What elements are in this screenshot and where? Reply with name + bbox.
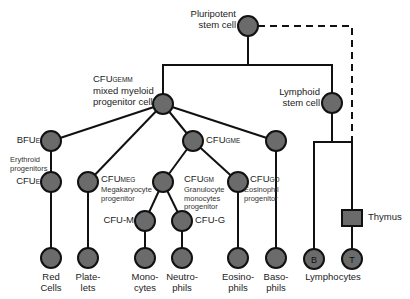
node-baso-progenitor: [266, 131, 286, 151]
label-cfu-gm: CFUGM: [184, 174, 214, 185]
label-cfu-gm-desc: Granulocyte monocytes progenitor: [184, 186, 224, 212]
node-cfu-gm: [153, 172, 173, 192]
label-pluripotent: Pluripotent stem cell: [170, 9, 236, 31]
label-cfu-eo: CFUGO: [250, 174, 280, 185]
label-neutrophils: Neutro- phils: [162, 272, 202, 294]
label-cfu-eo-desc: Eosinophil progenitor: [244, 186, 279, 203]
label-cfu-gemm-desc: mixed myeloid progenitor cell: [93, 86, 154, 108]
label-bfu-e: BFUE: [10, 135, 40, 146]
cfu-eo-main: CFU: [250, 173, 270, 184]
cfu-eo-sub: GO: [270, 176, 280, 183]
node-cfu-gme: [183, 131, 203, 151]
node-cfu-g: [172, 211, 192, 231]
bfu-e-sub: E: [36, 137, 40, 144]
lineage-diagram: B T: [0, 0, 410, 299]
bfu-e-main: BFU: [17, 134, 36, 145]
label-monocytes: Mono- cytes: [125, 272, 165, 294]
label-red-cells: Red Cells: [31, 272, 71, 294]
label-eosinophils: Eosino- phils: [218, 272, 258, 294]
thymus-box: [342, 210, 362, 226]
cfu-gemm-main: CFU: [93, 73, 113, 84]
cfu-gm-main: CFU: [184, 173, 204, 184]
cfu-gm-sub: GM: [204, 176, 214, 183]
label-cfu-m: CFU-M: [90, 215, 134, 226]
cfu-gme-sub: GME: [226, 137, 241, 144]
label-cfu-e: CFUE: [10, 176, 40, 187]
cfu-gemm-sub: GEMM: [113, 76, 133, 83]
cfu-gme-main: CFU: [206, 134, 226, 145]
node-cfu-e: [41, 172, 61, 192]
node-eosinophils: [228, 248, 248, 268]
node-neutrophils: [172, 248, 192, 268]
node-bfu-e: [41, 131, 61, 151]
label-platelets: Plate- lets: [68, 272, 108, 294]
label-erythroid-progenitors: Erythroid progenitors: [10, 156, 48, 173]
node-platelets: [78, 248, 98, 268]
label-lymphocytes: Lymphocytes: [303, 272, 363, 283]
label-lymphoid: Lymphoid stem cell: [270, 87, 320, 109]
label-cfu-g: CFU-G: [195, 215, 225, 226]
node-red-cells: [41, 248, 61, 268]
node-monocytes: [135, 248, 155, 268]
cfu-e-sub: E: [36, 178, 40, 185]
cfu-meg-sub: MEG: [121, 176, 136, 183]
node-cfu-m: [135, 211, 155, 231]
label-cfu-meg-desc: Megakaryocyte progenitor: [101, 186, 152, 203]
node-lymphoid: [322, 93, 342, 113]
node-cfu-gemm: [153, 94, 173, 114]
label-basophils: Baso- phils: [256, 272, 296, 294]
t-cell-letter: T: [349, 255, 355, 265]
label-thymus: Thymus: [368, 212, 402, 223]
cfu-meg-main: CFU: [101, 173, 121, 184]
cfu-e-main: CFU: [16, 175, 36, 186]
node-basophils: [266, 248, 286, 268]
edge-lymphoid-bar: [314, 142, 352, 258]
label-cfu-meg: CFUMEG: [101, 174, 135, 185]
edge-dashed-pluripotent-thymus: [258, 26, 352, 142]
label-cfu-gme: CFUGME: [206, 135, 240, 146]
b-cell-letter: B: [311, 255, 317, 265]
label-cfu-gemm: CFUGEMM: [93, 74, 133, 85]
node-cfu-meg: [78, 172, 98, 192]
node-pluripotent: [238, 16, 258, 36]
